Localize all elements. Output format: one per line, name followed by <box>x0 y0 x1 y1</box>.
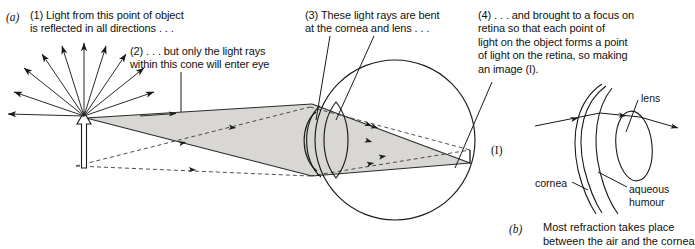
aqueous-chamber-curve <box>596 88 618 214</box>
callout-1-text: (1) Light from this point of object is r… <box>30 9 184 36</box>
leader-callout-3-lens <box>336 36 374 120</box>
retinal-image-label: (I) <box>491 143 503 157</box>
panel-b-letter: (b) <box>509 222 522 236</box>
incoming-ray-b <box>535 113 600 126</box>
light-cone-shaded <box>86 104 470 176</box>
object-arrow <box>77 112 91 168</box>
aqueous-humour-label: aqueous humour <box>629 183 669 209</box>
lens-ellipse <box>612 109 655 182</box>
callout-3-text: (3) These light rays are bent at the cor… <box>305 9 439 36</box>
cornea-label: cornea <box>535 177 567 190</box>
callout-4-text: (4) . . . and brought to a focus on reti… <box>478 9 634 76</box>
panel-b-caption: Most refraction takes place between the … <box>543 221 695 249</box>
lens-label: lens <box>641 92 660 105</box>
callout-2-text: (2) . . . but only the light rays within… <box>130 45 269 72</box>
refracted-ray-b <box>600 113 640 117</box>
panel-a-letter: (a) <box>6 10 19 24</box>
leader-callout-3-cornea <box>316 36 330 120</box>
cornea-outer-curve <box>575 84 602 214</box>
leader-cornea-b <box>572 182 588 190</box>
